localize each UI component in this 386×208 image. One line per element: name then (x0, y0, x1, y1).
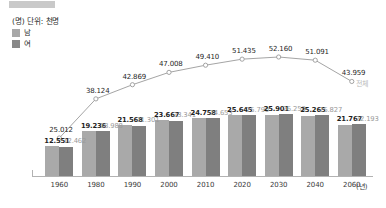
x-tick-label: 2030 (259, 181, 299, 189)
line-value-label: 38.124 (86, 88, 110, 95)
x-axis-unit-label: (년) (356, 181, 367, 191)
line-marker (203, 63, 207, 67)
unit-label: (명) 단위: 천명 (12, 17, 59, 26)
x-tick-label: 1990 (112, 181, 152, 189)
line-value-label: 51.091 (305, 49, 329, 56)
square-swatch-icon (12, 29, 20, 37)
line-value-label: 47.008 (159, 61, 183, 68)
square-swatch-icon (12, 40, 20, 48)
line-value-label: 25.012 (49, 127, 73, 134)
line-marker (240, 57, 244, 61)
bar-value-label-female: 12.462 (63, 138, 86, 145)
line-value-label: 43.959 (342, 70, 366, 77)
line-marker (130, 83, 134, 87)
top-grey-stub (9, 1, 55, 8)
bar-value-label-female: 22.193 (356, 116, 379, 123)
legend-label-female: 여 (24, 40, 31, 48)
x-tick-label: 2000 (149, 181, 189, 189)
line-value-label: 52.160 (269, 46, 293, 53)
line-value-label: 49.410 (196, 54, 220, 61)
bar-value-label-female: 25.827 (319, 107, 342, 114)
line-value-label: 42.869 (122, 74, 146, 81)
line-marker (277, 55, 281, 59)
legend-label-male: 남 (24, 29, 31, 37)
line-value-label: 51.435 (232, 48, 256, 55)
plot-area: 25.01238.12442.86947.00849.41051.43552.1… (33, 10, 373, 177)
total-line-series (33, 10, 373, 177)
legend-item-male: 남 (12, 29, 59, 37)
population-chart: (명) 단위: 천명 남 여 25.01238.12442.86947.0084… (0, 0, 386, 208)
line-marker (350, 79, 354, 83)
x-tick-label: 2040 (295, 181, 335, 189)
series-name-total: 전체 (356, 78, 368, 88)
line-marker (313, 58, 317, 62)
x-tick-label: 1980 (76, 181, 116, 189)
chart-legend: (명) 단위: 천명 남 여 (12, 17, 59, 50)
legend-item-female: 여 (12, 40, 59, 48)
x-tick-label: 2010 (186, 181, 226, 189)
line-marker (94, 97, 98, 101)
line-marker (167, 70, 171, 74)
x-tick-label: 2020 (222, 181, 262, 189)
x-tick-label: 1960 (39, 181, 79, 189)
